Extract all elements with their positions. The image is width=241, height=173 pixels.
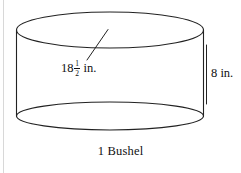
diameter-leader-line <box>87 30 108 61</box>
bushel-cylinder-figure: 18 1 2 in. 8 in. 1 Bushel <box>0 0 241 173</box>
figure-caption: 1 Bushel <box>0 145 241 158</box>
diameter-dimension-label: 18 1 2 in. <box>61 60 96 77</box>
fraction-denominator: 2 <box>74 69 80 77</box>
cylinder-bottom-back-arc <box>17 102 204 116</box>
cylinder-top-ellipse <box>17 12 204 48</box>
fraction-numerator: 1 <box>74 60 80 68</box>
diameter-unit: in. <box>84 62 97 75</box>
height-dimension-label: 8 in. <box>211 67 233 80</box>
cylinder-bottom-front-arc <box>17 116 204 130</box>
diameter-whole-number: 18 <box>61 62 74 75</box>
diameter-fraction: 1 2 <box>74 60 80 77</box>
